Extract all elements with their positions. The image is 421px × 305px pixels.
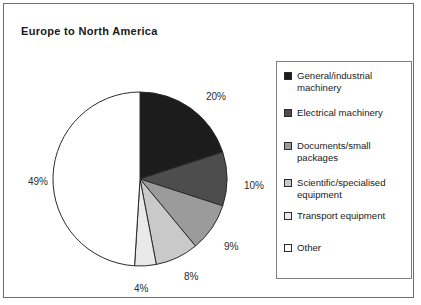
legend-item-label: Documents/small packages (297, 140, 409, 163)
legend-item[interactable]: Electrical machinery (284, 107, 409, 119)
pie-value-label: 49% (28, 176, 48, 187)
legend-swatch-icon (284, 142, 292, 150)
legend-item[interactable]: Transport equipment (284, 210, 409, 222)
pie-slice[interactable] (53, 92, 140, 266)
pie-value-label: 20% (206, 91, 226, 102)
legend-swatch-icon (284, 212, 292, 220)
legend-swatch-icon (284, 72, 292, 80)
legend-item[interactable]: Documents/small packages (284, 140, 409, 163)
pie-chart-svg (24, 66, 269, 291)
pie-value-label: 4% (134, 283, 148, 294)
legend-item[interactable]: Other (284, 242, 409, 254)
chart-frame: Europe to North America 20%10%9%8%4%49% … (3, 3, 414, 298)
pie-chart: 20%10%9%8%4%49% (24, 66, 269, 291)
legend-swatch-icon (284, 244, 292, 252)
pie-value-label: 8% (184, 271, 198, 282)
legend-item-label: Transport equipment (297, 210, 409, 222)
chart-title: Europe to North America (21, 25, 158, 37)
legend-item-label: General/industrial machinery (297, 70, 409, 93)
legend-item-label: Electrical machinery (297, 107, 409, 119)
legend-swatch-icon (284, 109, 292, 117)
pie-slice-group (53, 92, 227, 266)
legend-item-label: Scientific/specialised equipment (297, 177, 409, 200)
legend-item[interactable]: General/industrial machinery (284, 70, 409, 93)
chart-legend: General/industrial machineryElectrical m… (276, 61, 412, 279)
legend-item-label: Other (297, 242, 409, 254)
pie-value-label: 10% (244, 180, 264, 191)
pie-value-label: 9% (224, 241, 238, 252)
legend-swatch-icon (284, 179, 292, 187)
legend-item[interactable]: Scientific/specialised equipment (284, 177, 409, 200)
